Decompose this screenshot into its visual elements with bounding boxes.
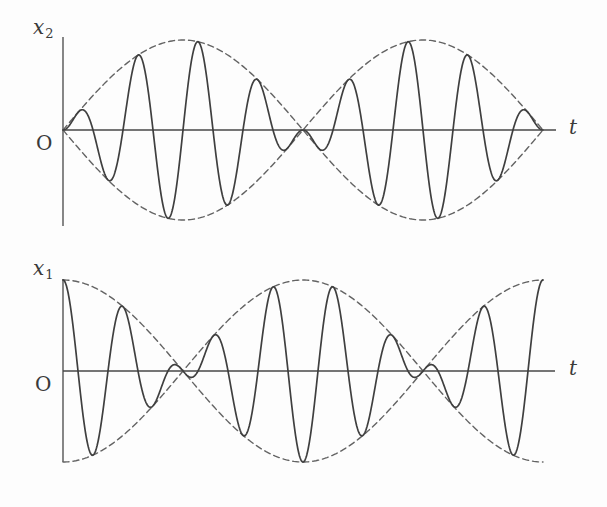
x1-origin-label: O — [35, 374, 51, 394]
x1-plot — [63, 279, 555, 462]
x1-t-axis-label: t — [569, 358, 577, 378]
beats-figure: x2 O t x1 O t — [0, 0, 607, 507]
x2-axis-label: x2 — [33, 17, 54, 40]
x2-axis-label-base: x — [33, 15, 44, 39]
x2-t-axis-label: t — [569, 117, 577, 137]
x2-axis-label-subscript: 2 — [45, 26, 53, 41]
x1-axis-label-subscript: 1 — [45, 267, 53, 282]
x1-axis-label: x1 — [33, 258, 54, 281]
x2-plot — [63, 37, 556, 226]
x2-origin-label: O — [36, 133, 52, 153]
figure-canvas — [0, 0, 607, 507]
x1-axis-label-base: x — [33, 256, 44, 280]
